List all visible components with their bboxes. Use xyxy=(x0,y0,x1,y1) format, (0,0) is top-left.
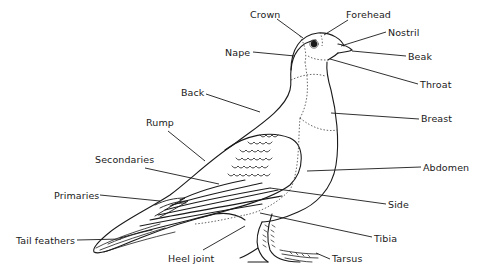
leader-tibia xyxy=(260,213,372,237)
label-primaries: Primaries xyxy=(54,190,99,201)
leader-side xyxy=(270,188,386,204)
label-beak: Beak xyxy=(408,51,432,62)
label-nostril: Nostril xyxy=(388,27,419,38)
leader-forehead xyxy=(324,20,348,35)
label-crown: Crown xyxy=(250,9,280,20)
label-tail-feathers: Tail feathers xyxy=(16,235,75,246)
leader-beak xyxy=(352,51,406,56)
label-back: Back xyxy=(181,87,204,98)
label-tarsus: Tarsus xyxy=(332,253,362,264)
label-heel-joint: Heel joint xyxy=(168,253,214,264)
label-forehead: Forehead xyxy=(346,9,391,20)
leader-throat xyxy=(330,59,418,84)
leader-crown xyxy=(277,19,303,38)
label-rump: Rump xyxy=(146,117,174,128)
label-tibia: Tibia xyxy=(374,233,397,244)
leader-heel-joint xyxy=(203,226,245,250)
leader-primaries xyxy=(100,195,160,201)
leader-abdomen xyxy=(307,167,421,171)
leader-rump xyxy=(168,131,205,161)
label-side: Side xyxy=(388,199,409,210)
leader-nape xyxy=(253,52,295,56)
label-breast: Breast xyxy=(421,113,452,124)
label-secondaries: Secondaries xyxy=(95,154,154,165)
leader-secondaries xyxy=(145,168,219,184)
leader-nostril xyxy=(341,32,386,46)
bird-topography-diagram: Crown Forehead Nostril Nape Beak Throat … xyxy=(0,0,477,274)
label-nape: Nape xyxy=(225,47,250,58)
leader-back xyxy=(206,94,260,112)
leader-breast xyxy=(331,113,419,119)
label-abdomen: Abdomen xyxy=(423,162,469,173)
label-throat: Throat xyxy=(420,79,451,90)
wing-outline xyxy=(120,134,301,238)
bird-outline xyxy=(94,40,316,253)
pigeon-illustration xyxy=(0,0,477,274)
